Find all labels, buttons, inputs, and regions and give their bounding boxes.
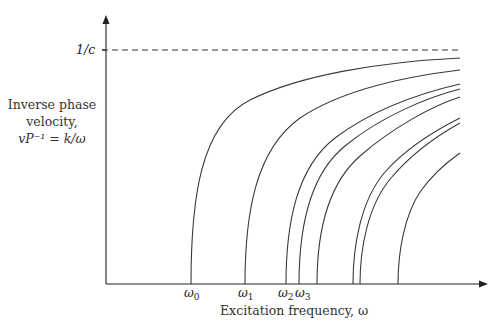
mode-curve-6 — [360, 123, 460, 284]
tick-symbol: ω — [278, 286, 288, 300]
y-axis-label-line1: Inverse phase — [0, 96, 104, 113]
tick-sub: 2 — [288, 292, 294, 302]
x-axis-arrow-icon — [479, 281, 488, 288]
tick-omega-2: ω2 — [278, 286, 294, 302]
y-axis-label-line2: velocity, — [0, 113, 104, 130]
tick-omega-3: ω3 — [295, 286, 311, 302]
mode-curve-0 — [191, 58, 460, 284]
mode-curve-5 — [353, 118, 460, 284]
tick-symbol: ω — [184, 286, 194, 300]
tick-omega-0: ω0 — [184, 286, 200, 302]
y-axis-arrow-icon — [103, 15, 110, 24]
x-axis-label: Excitation frequency, ω — [220, 303, 368, 318]
mode-curve-2 — [286, 84, 460, 284]
asymptote-label: 1/c — [76, 42, 95, 57]
tick-sub: 3 — [305, 292, 311, 302]
tick-sub: 0 — [194, 292, 200, 302]
tick-sub: 1 — [248, 292, 254, 302]
mode-curves — [191, 58, 460, 284]
y-axis-formula: vP⁻¹ = k/ω — [18, 131, 85, 146]
y-axis-label-line3: vP⁻¹ = k/ω — [0, 130, 104, 147]
tick-omega-1: ω1 — [238, 286, 254, 302]
mode-curve-4 — [317, 97, 460, 284]
tick-symbol: ω — [238, 286, 248, 300]
mode-curve-1 — [245, 70, 460, 284]
tick-symbol: ω — [295, 286, 305, 300]
mode-curve-7 — [398, 153, 460, 284]
y-axis-label: Inverse phase velocity, vP⁻¹ = k/ω — [0, 96, 104, 147]
mode-curve-3 — [299, 89, 460, 284]
